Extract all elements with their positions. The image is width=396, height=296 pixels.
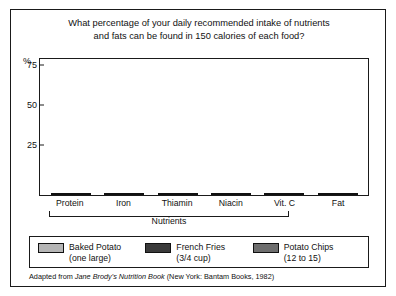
x-axis-label-iron: Iron — [99, 198, 147, 211]
bar — [331, 193, 345, 195]
bar-group — [51, 193, 90, 195]
legend-swatch — [145, 243, 171, 253]
bar — [104, 193, 118, 195]
legend-item: Potato Chips(12 to 15) — [253, 242, 360, 264]
y-tick-75: 75 — [27, 60, 40, 70]
bar-groups — [40, 59, 368, 195]
x-axis-label-protein: Protein — [46, 198, 94, 211]
chart-title-line-2: and fats can be found in 150 calories of… — [29, 30, 369, 43]
chart-legend: Baked Potato(one large)French Fries(3/4 … — [29, 236, 369, 268]
nutrients-bracket-label: Nutrients — [49, 216, 289, 226]
source-prefix: Adapted from — [29, 272, 75, 281]
bar — [130, 193, 144, 195]
x-axis-label-fat: Fat — [314, 198, 362, 211]
legend-series-name: Baked Potato — [69, 242, 121, 252]
x-axis-label-thiamin: Thiamin — [153, 198, 201, 211]
bar — [290, 193, 304, 195]
plot-area: 255075 — [39, 58, 369, 196]
bar — [158, 193, 172, 195]
legend-series-detail: (12 to 15) — [284, 253, 334, 264]
bar — [237, 193, 251, 195]
bar — [344, 193, 358, 195]
bar — [117, 193, 131, 195]
legend-text: French Fries(3/4 cup) — [176, 242, 225, 264]
legend-item: French Fries(3/4 cup) — [145, 242, 252, 264]
source-book-title: Jane Brody's Nutrition Book — [75, 272, 165, 281]
y-tick-50: 50 — [27, 100, 40, 110]
bar-group — [158, 193, 197, 195]
bar-group — [211, 193, 250, 195]
bar — [51, 193, 65, 195]
bar — [264, 193, 278, 195]
legend-swatch — [38, 243, 64, 253]
chart-title: What percentage of your daily recommende… — [29, 17, 369, 42]
x-axis-label-vit-c: Vit. C — [260, 198, 308, 211]
bar — [77, 193, 91, 195]
legend-text: Baked Potato(one large) — [69, 242, 121, 264]
bar — [64, 193, 78, 195]
source-credit: Adapted from Jane Brody's Nutrition Book… — [29, 272, 274, 281]
y-tick-label: 25 — [27, 140, 37, 150]
legend-series-name: French Fries — [176, 242, 225, 252]
legend-series-detail: (3/4 cup) — [176, 253, 225, 264]
legend-swatch — [253, 243, 279, 253]
bar — [211, 193, 225, 195]
x-axis-label-niacin: Niacin — [207, 198, 255, 211]
bar-group — [264, 193, 303, 195]
y-tick-label: 75 — [27, 60, 37, 70]
legend-item: Baked Potato(one large) — [38, 242, 145, 264]
y-tick-25: 25 — [27, 140, 40, 150]
legend-series-name: Potato Chips — [284, 242, 334, 252]
bar — [318, 193, 332, 195]
figure-panel: What percentage of your daily recommende… — [10, 9, 386, 287]
bar — [277, 193, 291, 195]
bar-group — [104, 193, 143, 195]
bar — [171, 193, 185, 195]
chart-title-line-1: What percentage of your daily recommende… — [29, 17, 369, 30]
source-suffix: (New York: Bantam Books, 1982) — [165, 272, 275, 281]
x-axis-category-labels: ProteinIronThiaminNiacinVit. CFat — [39, 198, 369, 211]
legend-series-detail: (one large) — [69, 253, 121, 264]
y-tick-label: 50 — [27, 100, 37, 110]
bar — [224, 193, 238, 195]
bar — [184, 193, 198, 195]
legend-text: Potato Chips(12 to 15) — [284, 242, 334, 264]
bar-group — [318, 193, 357, 195]
